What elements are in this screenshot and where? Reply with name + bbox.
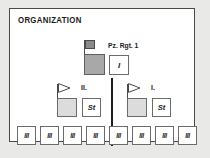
company-box: III [17,126,36,145]
battalion-unit-symbol [57,98,77,117]
company-row: IIIIIIIIIIIIIIIIIIIIIIII [10,126,210,148]
battalion-staff-box: St [152,98,171,117]
company-box: III [109,126,128,145]
battalion-label: II. [81,84,87,91]
company-box: III [132,126,151,145]
company-box: III [86,126,105,145]
battalion-unit-symbol [127,98,147,117]
regiment-staff-box: I [109,55,129,75]
company-box: III [40,126,59,145]
company-box: III [178,126,197,145]
regiment-label: Pz. Rgt. 1 [108,41,138,50]
battalion-pennant-icon [58,83,71,93]
company-box: III [155,126,174,145]
organization-chart-page: ORGANIZATION Pz. Rgt. 1 I II. St [0,0,210,158]
regiment-flag-icon [85,40,95,49]
chart-panel: ORGANIZATION Pz. Rgt. 1 I II. St [9,8,195,142]
page-title: ORGANIZATION [18,15,82,25]
company-box: III [63,126,82,145]
battalion-staff-box: St [82,98,101,117]
battalion-pennant-icon [128,83,141,93]
battalion-label: I. [151,84,155,91]
regiment-unit-symbol [84,54,105,75]
